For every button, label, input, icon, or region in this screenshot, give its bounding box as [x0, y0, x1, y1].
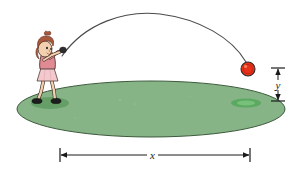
- person-left-shoe: [32, 98, 42, 103]
- person-skirt: [37, 68, 58, 81]
- person-right-shoe: [51, 98, 61, 103]
- y-dimension-label-text: y: [275, 79, 281, 91]
- field-speckle: [189, 95, 192, 96]
- person-hands: [60, 47, 67, 53]
- red-ball-group: [241, 62, 255, 76]
- landing-spot-highlight: [237, 100, 255, 105]
- x-dimension-line: x: [60, 148, 250, 162]
- person-hair-bow: [44, 31, 50, 35]
- x-dimension-label: x: [149, 149, 155, 161]
- y-dimension-line: y y: [271, 68, 285, 101]
- field-speckle: [134, 103, 136, 104]
- field-speckle: [74, 117, 77, 118]
- ball-highlight: [244, 65, 247, 68]
- figure-canvas: y y x: [0, 0, 301, 169]
- ball-trajectory-arc: [62, 13, 246, 62]
- green-elliptical-field: [17, 81, 285, 137]
- person-eye: [50, 48, 52, 50]
- person-eye: [46, 47, 48, 49]
- x-dimension-arrow-left: [61, 152, 68, 157]
- y-dimension-arrow-up: [275, 69, 280, 76]
- field-speckle: [118, 99, 121, 100]
- field-group: [17, 81, 285, 137]
- physics-figure: y y x: [0, 0, 301, 169]
- x-dimension-arrow-right: [243, 152, 250, 157]
